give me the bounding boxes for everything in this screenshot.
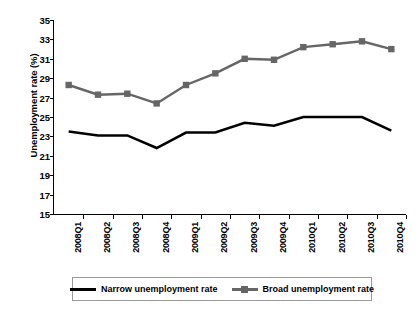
y-tick-mark bbox=[50, 39, 54, 40]
legend-entry: Narrow unemployment rate bbox=[70, 284, 218, 294]
y-tick-mark bbox=[50, 117, 54, 118]
x-tick-mark bbox=[347, 215, 348, 219]
series-narrow-unemployment-rate bbox=[69, 117, 392, 148]
x-tick-label: 2008Q3 bbox=[131, 222, 141, 253]
x-tick-mark bbox=[318, 215, 319, 219]
y-tick-mark bbox=[50, 78, 54, 79]
legend-label: Broad unemployment rate bbox=[263, 284, 375, 294]
y-tick-mark bbox=[50, 214, 54, 215]
data-point-marker bbox=[183, 82, 189, 88]
y-tick-label: 19 bbox=[28, 170, 50, 181]
series-line bbox=[69, 117, 392, 148]
x-tick-mark bbox=[171, 215, 172, 219]
y-tick-mark bbox=[50, 98, 54, 99]
y-tick-mark bbox=[50, 175, 54, 176]
x-tick-mark bbox=[406, 215, 407, 219]
x-tick-label: 2008Q2 bbox=[102, 222, 112, 253]
data-point-marker bbox=[329, 41, 335, 47]
y-axis-tick-labels: 3533312927252321191715 bbox=[26, 20, 50, 215]
y-tick-label: 35 bbox=[28, 15, 50, 26]
data-point-marker bbox=[212, 70, 218, 76]
data-point-marker bbox=[271, 57, 277, 63]
x-tick-mark bbox=[377, 215, 378, 219]
y-tick-label: 17 bbox=[28, 189, 50, 200]
plot-area bbox=[54, 20, 406, 214]
legend-label: Narrow unemployment rate bbox=[101, 284, 218, 294]
x-tick-label: 2008Q4 bbox=[161, 222, 171, 253]
y-tick-mark bbox=[50, 136, 54, 137]
x-tick-label: 2009Q2 bbox=[219, 222, 229, 253]
data-point-marker bbox=[95, 91, 101, 97]
data-point-marker bbox=[153, 100, 159, 106]
y-tick-label: 27 bbox=[28, 92, 50, 103]
x-tick-label: 2010Q4 bbox=[395, 222, 405, 253]
data-point-marker bbox=[241, 56, 247, 62]
y-tick-mark bbox=[50, 20, 54, 21]
y-tick-mark bbox=[50, 195, 54, 196]
legend-swatch-icon bbox=[70, 284, 96, 294]
y-tick-label: 21 bbox=[28, 150, 50, 161]
x-tick-mark bbox=[113, 215, 114, 219]
unemployment-rate-line-chart: Unemployment rate (%) 353331292725232119… bbox=[0, 0, 419, 313]
legend-swatch-icon bbox=[232, 284, 258, 294]
data-point-marker bbox=[359, 38, 365, 44]
y-tick-label: 31 bbox=[28, 53, 50, 64]
chart-legend: Narrow unemployment rateBroad unemployme… bbox=[72, 277, 372, 301]
x-tick-mark bbox=[201, 215, 202, 219]
y-tick-label: 23 bbox=[28, 131, 50, 142]
series-line bbox=[69, 41, 392, 103]
x-tick-label: 2009Q4 bbox=[278, 222, 288, 253]
data-point-marker bbox=[300, 44, 306, 50]
x-tick-mark bbox=[259, 215, 260, 219]
x-tick-label: 2009Q1 bbox=[190, 222, 200, 253]
y-tick-label: 15 bbox=[28, 209, 50, 220]
y-tick-label: 33 bbox=[28, 34, 50, 45]
y-tick-mark bbox=[50, 59, 54, 60]
y-tick-label: 25 bbox=[28, 112, 50, 123]
x-tick-label: 2010Q2 bbox=[337, 222, 347, 253]
y-tick-label: 29 bbox=[28, 73, 50, 84]
x-tick-mark bbox=[142, 215, 143, 219]
legend-entry: Broad unemployment rate bbox=[232, 284, 375, 294]
y-tick-mark bbox=[50, 156, 54, 157]
x-tick-mark bbox=[230, 215, 231, 219]
data-point-marker bbox=[388, 46, 394, 52]
data-point-marker bbox=[65, 82, 71, 88]
x-tick-label: 2009Q3 bbox=[249, 222, 259, 253]
series-broad-unemployment-rate bbox=[65, 38, 394, 106]
series-canvas bbox=[54, 20, 406, 214]
x-tick-label: 2010Q1 bbox=[307, 222, 317, 253]
data-point-marker bbox=[124, 91, 130, 97]
x-tick-label: 2010Q3 bbox=[366, 222, 376, 253]
x-tick-mark bbox=[289, 215, 290, 219]
x-tick-label: 2008Q1 bbox=[73, 222, 83, 253]
x-tick-mark bbox=[83, 215, 84, 219]
